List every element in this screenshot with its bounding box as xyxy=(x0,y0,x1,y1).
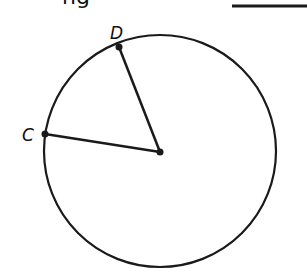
label-c: C xyxy=(22,125,34,145)
circle-diagram: ng D C xyxy=(0,0,307,272)
cut-off-heading-text: ng xyxy=(62,0,90,9)
center-point xyxy=(157,149,164,156)
radius-c xyxy=(45,134,160,152)
label-d: D xyxy=(110,23,123,43)
point-d xyxy=(116,44,123,51)
radius-d xyxy=(119,47,160,152)
point-c xyxy=(42,131,49,138)
